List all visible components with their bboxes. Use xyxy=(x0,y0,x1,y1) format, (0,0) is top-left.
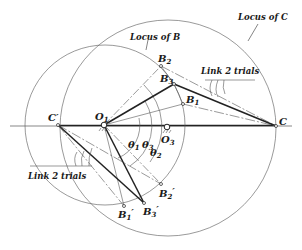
b1p-joint xyxy=(123,205,126,208)
theta3-arc xyxy=(130,101,152,166)
b1-prime-label: B1′ xyxy=(117,207,134,222)
trial-arrow-5 xyxy=(81,151,84,166)
trial-arrow-4 xyxy=(75,152,77,166)
locus-c-leader xyxy=(248,24,258,41)
o1-label: O1 xyxy=(95,111,109,124)
c-prime-joint xyxy=(57,124,60,127)
theta1-arc xyxy=(118,118,140,158)
o3-label: O3 xyxy=(161,134,175,147)
link2-trials-upper-label: Link 2 trials xyxy=(200,66,259,76)
link2-trials-lower-label: Link 2 trials xyxy=(27,171,86,181)
c-joint xyxy=(275,125,278,128)
locus-of-c-label: Locus of C xyxy=(237,12,288,22)
b2-label: B2 xyxy=(157,53,171,66)
trial-arrow-2 xyxy=(216,80,218,97)
c-prime-label: C′ xyxy=(48,112,59,123)
locus-of-b-label: Locus of B xyxy=(129,32,180,42)
b3-prime-label: B3′ xyxy=(142,204,159,219)
b2-joint xyxy=(160,65,163,68)
b2p-joint xyxy=(160,183,163,186)
b3-label: B3 xyxy=(159,73,173,86)
o1-b1-line xyxy=(104,104,183,125)
o3-pivot xyxy=(163,124,171,133)
b3p-joint xyxy=(143,202,146,205)
cp-b3p-link xyxy=(58,125,144,203)
c-label: C xyxy=(279,116,287,127)
trial-arrow-1 xyxy=(210,80,212,96)
b1-joint xyxy=(182,103,185,106)
linkage-diagram: Locus of B Locus of C Link 2 trials Link… xyxy=(0,0,302,250)
b2-prime-label: B2′ xyxy=(158,186,175,201)
b3-c-link xyxy=(174,84,276,126)
trial-arrow-3 xyxy=(223,80,225,94)
theta2-label: θ2 xyxy=(150,147,162,160)
